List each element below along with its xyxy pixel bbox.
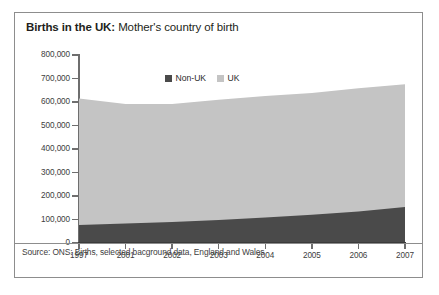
stacked-area-plot <box>79 55 405 243</box>
y-axis-tick-label: 600,000 <box>15 97 70 107</box>
chart-legend: Non-UKUK <box>165 73 240 83</box>
source-divider <box>15 243 422 244</box>
y-axis-tick-label: 500,000 <box>15 121 70 131</box>
page-title: Births in the UK: Mother's country of bi… <box>26 21 239 33</box>
legend-swatch-icon <box>165 75 172 82</box>
x-axis-tick <box>404 244 406 249</box>
y-axis-tick-label-text: 300,000 <box>18 168 70 177</box>
legend-label: Non-UK <box>176 73 207 83</box>
y-axis-tick-label-text: 500,000 <box>18 121 70 130</box>
y-axis-tick-label: 800,000 <box>15 50 70 60</box>
y-axis-tick-label-text: 200,000 <box>18 191 70 200</box>
chart-title-strong: Births in the UK: <box>26 21 115 33</box>
legend-entry: UK <box>217 73 239 83</box>
y-axis-tick-label: 400,000 <box>15 144 70 154</box>
source-note: Source: ONS: Births, selected bacground … <box>22 247 264 257</box>
x-axis-tick-label: 2005 <box>292 251 332 260</box>
y-axis-tick-label: 200,000 <box>15 191 70 201</box>
y-axis-tick-label: 300,000 <box>15 168 70 178</box>
plot-area <box>79 55 405 243</box>
y-axis-tick-label-text: 600,000 <box>18 97 70 106</box>
y-axis-tick-label: 100,000 <box>15 215 70 225</box>
x-axis-tick-label: 2007 <box>385 251 425 260</box>
x-axis-tick <box>265 244 267 249</box>
legend-entry: Non-UK <box>165 73 206 83</box>
x-axis-tick-label: 2006 <box>338 251 378 260</box>
y-axis-tick-label-text: 100,000 <box>18 215 70 224</box>
y-axis-tick-label-text: 800,000 <box>18 50 70 59</box>
y-axis-tick-label: 700,000 <box>15 74 70 84</box>
x-axis-tick <box>358 244 360 249</box>
y-axis-tick-label-text: 400,000 <box>18 144 70 153</box>
legend-swatch-icon <box>217 75 224 82</box>
legend-label: UK <box>228 73 240 83</box>
chart-figure-frame: Births in the UK: Mother's country of bi… <box>14 12 423 278</box>
chart-title-rest: Mother's country of birth <box>115 21 239 33</box>
x-axis-tick <box>311 244 313 249</box>
y-axis-tick-label-text: 700,000 <box>18 74 70 83</box>
